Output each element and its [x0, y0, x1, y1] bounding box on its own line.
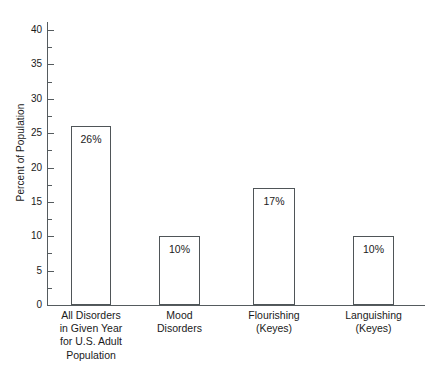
bar: 17% — [253, 188, 295, 305]
y-tick-label: 35 — [12, 59, 42, 69]
y-tick-label-wrap: 35 — [8, 59, 42, 69]
y-tick-major — [47, 133, 54, 134]
y-tick-minor — [47, 150, 52, 151]
y-tick-label-wrap: 20 — [8, 163, 42, 173]
y-tick-label: 20 — [12, 163, 42, 173]
y-tick-major — [47, 168, 54, 169]
y-tick-major — [47, 202, 54, 203]
y-tick-label: 40 — [12, 25, 42, 35]
y-tick-label: 5 — [12, 266, 42, 276]
y-tick-label-wrap: 40 — [8, 25, 42, 35]
y-tick-minor — [47, 288, 52, 289]
y-tick-minor — [47, 219, 52, 220]
y-tick-label-wrap: 10 — [8, 231, 42, 241]
x-category-label: Flourishing (Keyes) — [234, 309, 314, 335]
y-tick-major — [47, 64, 54, 65]
bar-value-label: 10% — [160, 244, 199, 255]
y-tick-minor — [47, 116, 52, 117]
bar: 10% — [159, 236, 200, 305]
y-tick-major — [47, 271, 54, 272]
y-tick-label: 15 — [12, 197, 42, 207]
x-axis-line — [47, 305, 425, 306]
y-tick-label: 10 — [12, 231, 42, 241]
bar-value-label: 26% — [72, 134, 110, 145]
y-tick-label-wrap: 15 — [8, 197, 42, 207]
y-tick-minor — [47, 47, 52, 48]
y-tick-major — [47, 305, 54, 306]
y-tick-minor — [47, 253, 52, 254]
y-tick-minor — [47, 82, 52, 83]
y-tick-major — [47, 236, 54, 237]
bar: 10% — [353, 236, 394, 305]
y-tick-label-wrap: 0 — [8, 300, 42, 310]
bar: 26% — [71, 126, 111, 305]
y-axis-title: Percent of Population — [14, 0, 28, 305]
y-tick-label: 0 — [12, 300, 42, 310]
y-tick-label: 25 — [12, 128, 42, 138]
y-tick-label-wrap: 25 — [8, 128, 42, 138]
bar-chart: Percent of Population 0510152025303540 2… — [0, 0, 430, 366]
x-category-label: Languishing (Keyes) — [334, 309, 413, 335]
bar-value-label: 10% — [354, 244, 393, 255]
y-tick-major — [47, 99, 54, 100]
y-tick-minor — [47, 185, 52, 186]
y-tick-label: 30 — [12, 94, 42, 104]
bar-value-label: 17% — [254, 196, 294, 207]
x-category-label: All Disorders in Given Year for U.S. Adu… — [51, 309, 131, 362]
x-category-label: Mood Disorders — [140, 309, 219, 335]
y-tick-label-wrap: 5 — [8, 266, 42, 276]
y-tick-major — [47, 30, 54, 31]
y-tick-label-wrap: 30 — [8, 94, 42, 104]
